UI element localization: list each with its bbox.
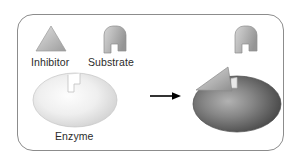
enzyme-inhibitor-complex: [193, 67, 281, 132]
enzyme-inhibition-figure: Inhibitor Substrate Enzyme: [0, 0, 301, 167]
label-enzyme: Enzyme: [55, 130, 94, 142]
substrate-shape-free: [104, 26, 126, 53]
substrate-shape-excluded: [235, 26, 257, 53]
inhibitor-triangle-free: [36, 26, 66, 51]
reaction-arrow: [150, 92, 181, 100]
label-substrate: Substrate: [88, 56, 134, 68]
diagram-canvas: [0, 0, 301, 167]
label-inhibitor: Inhibitor: [31, 56, 69, 68]
enzyme-free: [33, 73, 117, 127]
